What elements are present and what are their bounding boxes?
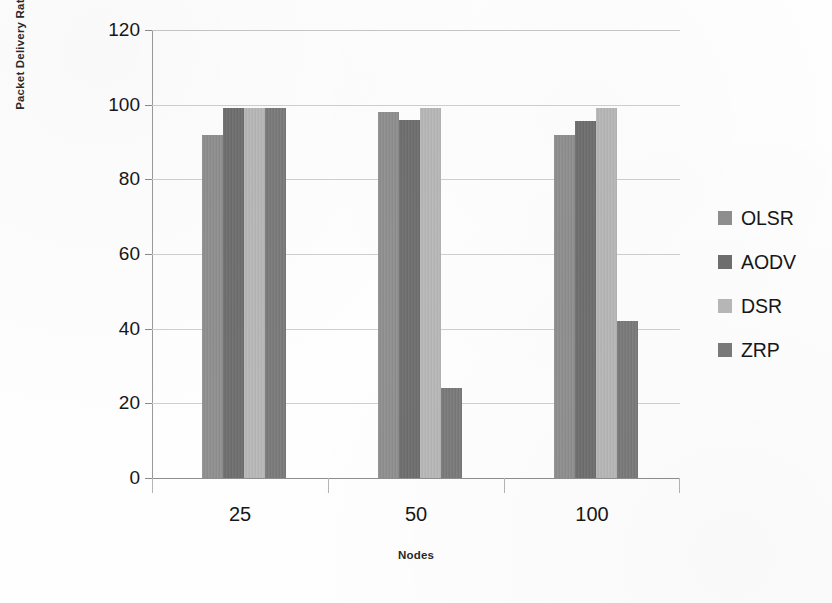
bar-series-container [152,30,680,478]
bar-aodv-25[interactable] [223,108,244,478]
y-axis-tick [145,329,152,330]
bar-zrp-25[interactable] [265,108,286,478]
y-axis-tick [145,478,152,479]
legend-item-olsr[interactable]: OLSR [718,196,828,240]
y-axis-tick-label: 60 [119,243,140,265]
bar-fill [441,388,462,478]
bar-zrp-50[interactable] [441,388,462,478]
legend-item-zrp[interactable]: ZRP [718,328,828,372]
bar-fill [420,108,441,478]
x-axis-tick [504,478,505,493]
y-axis-tick [145,105,152,106]
chart-legend: OLSRAODVDSRZRP [718,196,828,372]
y-axis-tick [145,254,152,255]
bar-fill [554,135,575,478]
bar-olsr-100[interactable] [554,135,575,478]
bar-fill [617,321,638,478]
plot-area: 020406080100120 [152,30,680,478]
bar-zrp-100[interactable] [617,321,638,478]
bar-fill [202,135,223,478]
bar-fill [378,112,399,478]
bar-fill [265,108,286,478]
legend-swatch-icon [718,255,732,269]
legend-label: ZRP [741,339,780,362]
y-axis-tick-label: 120 [108,19,140,41]
x-axis-tick-labels: 2550100 [152,503,680,533]
bar-dsr-100[interactable] [596,108,617,478]
x-axis-title: Nodes [152,549,680,561]
bar-group [202,30,286,478]
y-axis-tick [145,30,152,31]
legend-label: AODV [741,251,796,274]
bar-aodv-100[interactable] [575,121,596,478]
bar-aodv-50[interactable] [399,120,420,478]
legend-swatch-icon [718,211,732,225]
y-axis-title: Packet Delivery Ratio(%) [14,0,26,155]
bar-dsr-25[interactable] [244,108,265,478]
bar-group [554,30,638,478]
y-axis-tick-label: 0 [129,467,140,489]
x-axis-tick-label: 50 [405,503,427,526]
legend-swatch-icon [718,343,732,357]
bar-fill [244,108,265,478]
x-axis-tick-label: 100 [575,503,608,526]
bar-dsr-50[interactable] [420,108,441,478]
x-axis-tick-label: 25 [229,503,251,526]
x-axis-tick [679,478,680,493]
bar-fill [596,108,617,478]
y-axis-tick-label: 80 [119,168,140,190]
x-axis-tick [328,478,329,493]
legend-item-aodv[interactable]: AODV [718,240,828,284]
x-axis-tick [152,478,153,493]
legend-label: DSR [741,295,782,318]
chart-figure: Packet Delivery Ratio(%) 020406080100120… [0,0,832,603]
y-axis-tick-label: 40 [119,318,140,340]
y-axis-tick-label: 20 [119,392,140,414]
bar-olsr-50[interactable] [378,112,399,478]
bar-fill [575,121,596,478]
y-axis-tick [145,179,152,180]
legend-item-dsr[interactable]: DSR [718,284,828,328]
x-axis-ticks [152,478,680,494]
bar-olsr-25[interactable] [202,135,223,478]
bar-fill [223,108,244,478]
bar-group [378,30,462,478]
legend-label: OLSR [741,207,794,230]
bar-fill [399,120,420,478]
y-axis-tick-label: 100 [108,94,140,116]
legend-swatch-icon [718,299,732,313]
y-axis-tick [145,403,152,404]
